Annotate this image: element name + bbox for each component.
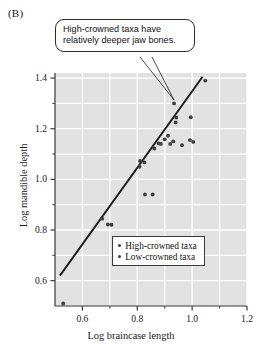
y-axis-tick-label: 1.2: [21, 123, 47, 134]
data-point: [163, 137, 167, 141]
figure-panel: (B) High-crowned taxa have relatively de…: [0, 0, 262, 356]
data-point: [180, 143, 184, 147]
data-point: [152, 147, 156, 151]
annotation-callout: High-crowned taxa have relatively deeper…: [55, 19, 195, 52]
x-axis-tick-label: 1.0: [177, 313, 207, 324]
data-point: [166, 134, 170, 138]
data-point: [168, 142, 172, 146]
legend-item-low-crowned: Low-crowned taxa: [118, 251, 197, 262]
data-point: [106, 223, 110, 227]
callout-line-1: High-crowned taxa have: [63, 24, 187, 35]
x-axis-tick-label: 0.8: [122, 313, 152, 324]
data-point: [100, 217, 104, 221]
x-axis-tick-label: 1.2: [232, 313, 262, 324]
legend-marker-dot: [118, 255, 121, 258]
callout-line-2: relatively deeper jaw bones.: [63, 35, 187, 46]
y-axis-tick-label: 0.6: [21, 275, 47, 286]
data-point: [110, 223, 114, 227]
plot-area: [55, 73, 247, 306]
data-point: [189, 115, 193, 119]
x-axis-tick-label: 0.6: [67, 313, 97, 324]
data-point: [142, 160, 146, 164]
y-axis-tick-label: 0.8: [21, 224, 47, 235]
data-point: [191, 140, 195, 144]
data-point: [138, 159, 142, 163]
legend-label: High-crowned taxa: [125, 241, 197, 251]
data-point: [171, 139, 175, 143]
y-axis-tick-label: 1.4: [21, 72, 47, 83]
data-point: [159, 142, 163, 146]
data-point: [143, 193, 147, 197]
y-axis-tick-label: 1.0: [21, 173, 47, 184]
data-point: [61, 302, 65, 306]
data-point: [151, 193, 155, 197]
legend-label: Low-crowned taxa: [125, 252, 195, 262]
data-point: [172, 101, 176, 105]
data-point: [174, 120, 178, 124]
data-point: [188, 138, 192, 142]
legend-marker-dot: [118, 244, 121, 247]
legend-item-high-crowned: High-crowned taxa: [118, 240, 197, 251]
data-point: [203, 79, 207, 83]
data-point: [174, 116, 178, 120]
chart-legend: High-crowned taxa Low-crowned taxa: [112, 236, 205, 266]
data-point: [138, 165, 142, 169]
x-axis-title: Log braincase length: [0, 330, 262, 341]
